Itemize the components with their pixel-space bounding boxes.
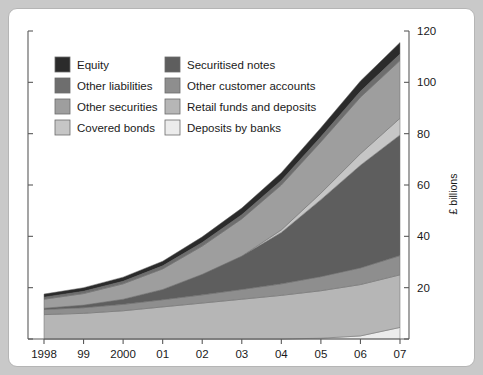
chart-container: 20406080100120199899200001020304050607£ … [9, 9, 476, 368]
x-tick-label: 07 [394, 348, 407, 360]
legend-swatch [165, 78, 180, 93]
x-tick-label: 01 [156, 348, 169, 360]
legend: EquityOther liabilitiesOther securitiesC… [55, 57, 316, 135]
legend-swatch [55, 57, 70, 72]
legend-swatch [165, 99, 180, 114]
legend-swatch [55, 120, 70, 135]
y-tick-label: 60 [417, 179, 430, 191]
x-axis-ticks: 199899200001020304050607 [31, 339, 406, 360]
y-tick-label: 100 [417, 76, 436, 88]
legend-label: Other customer accounts [187, 80, 316, 92]
x-tick-label: 04 [275, 348, 288, 360]
legend-item: Other securities [55, 99, 158, 114]
legend-item: Other customer accounts [165, 78, 316, 93]
x-tick-label: 99 [77, 348, 90, 360]
x-tick-label: 02 [196, 348, 209, 360]
legend-item: Securitised notes [165, 57, 275, 72]
legend-label: Deposits by banks [187, 122, 281, 134]
legend-item: Retail funds and deposits [165, 99, 316, 114]
y-tick-label: 40 [417, 230, 430, 242]
legend-label: Covered bonds [77, 122, 155, 134]
x-tick-label: 03 [235, 348, 248, 360]
y-tick-label: 20 [417, 282, 430, 294]
x-tick-label: 2000 [110, 348, 136, 360]
x-tick-label: 05 [314, 348, 327, 360]
legend-item: Deposits by banks [165, 120, 281, 135]
legend-item: Equity [55, 57, 109, 72]
legend-label: Other securities [77, 101, 158, 113]
legend-swatch [165, 120, 180, 135]
legend-swatch [165, 57, 180, 72]
legend-label: Securitised notes [187, 59, 275, 71]
legend-item: Other liabilities [55, 78, 153, 93]
figure-panel: 20406080100120199899200001020304050607£ … [8, 8, 475, 367]
legend-swatch [55, 78, 70, 93]
legend-item: Covered bonds [55, 120, 155, 135]
legend-swatch [55, 99, 70, 114]
legend-label: Retail funds and deposits [187, 101, 316, 113]
x-tick-label: 06 [354, 348, 367, 360]
y-axis-title: £ billions [447, 174, 459, 215]
y-tick-label: 120 [417, 25, 436, 37]
y-tick-label: 80 [417, 128, 430, 140]
x-tick-label: 1998 [31, 348, 57, 360]
legend-label: Equity [77, 59, 109, 71]
stacked-area-chart: 20406080100120199899200001020304050607£ … [9, 9, 476, 368]
legend-label: Other liabilities [77, 80, 153, 92]
